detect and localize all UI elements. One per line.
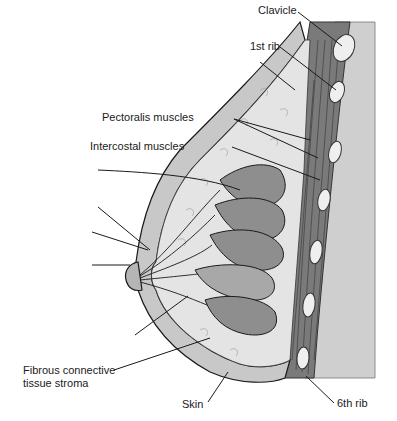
label-fibrous-connective-line1: Fibrous connective — [23, 364, 115, 377]
label-clavicle: Clavicle — [258, 4, 297, 17]
breast-anatomy-diagram: Clavicle 1st rib Pectoralis muscles Inte… — [0, 0, 397, 421]
label-intercostal-muscles: Intercostal muscles — [90, 140, 184, 153]
anatomy-illustration — [0, 0, 397, 421]
label-pectoralis-muscles: Pectoralis muscles — [102, 111, 194, 124]
label-fibrous-connective-line2: tissue stroma — [23, 377, 88, 390]
label-skin: Skin — [182, 398, 203, 411]
label-first-rib: 1st rib — [250, 40, 280, 53]
label-sixth-rib: 6th rib — [337, 397, 368, 410]
